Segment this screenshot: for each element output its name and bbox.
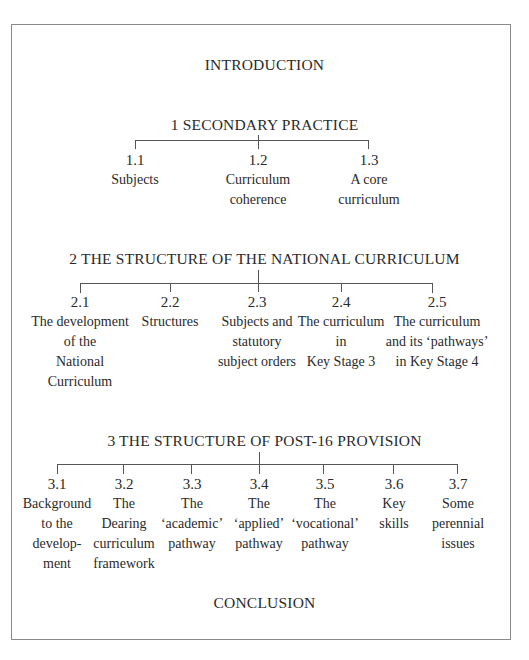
- tick-3-2: [123, 464, 124, 474]
- introduction-heading: INTRODUCTION: [0, 56, 529, 74]
- tick-1-1: [135, 140, 136, 149]
- node-number: 1.1: [80, 150, 190, 170]
- tick-3-1: [57, 464, 58, 474]
- section-2-title: 2 THE STRUCTURE OF THE NATIONAL CURRICUL…: [0, 250, 529, 268]
- tick-3-7: [457, 464, 458, 474]
- node-3-5: 3.5 The ‘vocational’ pathway: [285, 474, 365, 554]
- section-2-bracket: [80, 283, 433, 284]
- node-label: Some perennial issues: [418, 494, 498, 554]
- tick-2-3: [258, 283, 259, 292]
- node-label: The ‘vocational’ pathway: [285, 494, 365, 554]
- node-label: Subjects: [80, 170, 190, 190]
- node-number: 1.2: [203, 150, 313, 170]
- tick-2-2: [170, 283, 171, 292]
- section-2-stem: [258, 270, 259, 284]
- node-2-5: 2.5 The curriculum and its ‘pathways’ in…: [375, 292, 499, 372]
- node-1-3: 1.3 A core curriculum: [314, 150, 424, 210]
- section-1-title: 1 SECONDARY PRACTICE: [0, 116, 529, 134]
- tick-1-3: [368, 140, 369, 149]
- node-number: 3.5: [285, 474, 365, 494]
- section-3-bracket: [57, 464, 458, 465]
- tick-2-4: [341, 283, 342, 292]
- tick-3-3: [191, 464, 192, 474]
- node-label: Curriculum coherence: [203, 170, 313, 210]
- conclusion-heading: CONCLUSION: [0, 594, 529, 612]
- node-number: 3.7: [418, 474, 498, 494]
- node-label: A core curriculum: [314, 170, 424, 210]
- node-number: 1.3: [314, 150, 424, 170]
- tick-3-4: [259, 464, 260, 474]
- node-1-1: 1.1 Subjects: [80, 150, 190, 190]
- section-3-title: 3 THE STRUCTURE OF POST-16 PROVISION: [0, 432, 529, 450]
- node-number: 2.5: [375, 292, 499, 312]
- tick-3-5: [323, 464, 324, 474]
- section-1-bracket: [135, 140, 369, 141]
- node-1-2: 1.2 Curriculum coherence: [203, 150, 313, 210]
- tick-1-2: [258, 140, 259, 149]
- node-3-7: 3.7 Some perennial issues: [418, 474, 498, 554]
- node-label: The curriculum and its ‘pathways’ in Key…: [375, 312, 499, 372]
- tick-3-6: [393, 464, 394, 474]
